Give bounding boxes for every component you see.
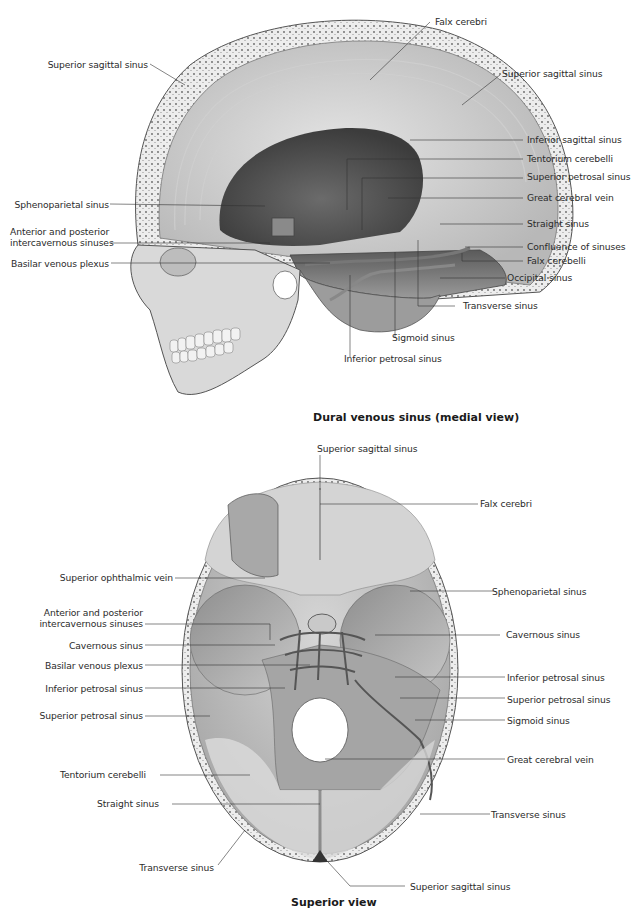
label-medial-intercavernous-line1: Anterior and posterior [10,226,109,237]
label-superior-tentorium-cerebelli: Tentorium cerebelli [10,769,146,780]
label-medial-basilar-venous-plexus: Basilar venous plexus [10,258,109,269]
label-superior-intercavernous-line1: Anterior and posterior [10,607,143,618]
label-medial-transverse-sinus: Transverse sinus [463,300,538,311]
label-superior-straight-sinus: Straight sinus [10,798,159,809]
label-superior-intercavernous-line2: intercavernous sinuses [10,618,143,629]
label-medial-sigmoid-sinus: Sigmoid sinus [392,332,455,343]
label-medial-inferior-petrosal-sinus: Inferior petrosal sinus [344,353,442,364]
label-superior-superior-petrosal-sinus-left: Superior petrosal sinus [10,710,143,721]
superior-view-skull-base [182,478,458,862]
label-medial-straight-sinus: Straight sinus [527,218,589,229]
anatomy-figure-page: Superior sagittal sinus Sphenoparietal s… [0,0,637,923]
label-medial-falx-cerebri: Falx cerebri [435,16,487,27]
label-medial-superior-sagittal-sinus-left: Superior sagittal sinus [32,59,148,70]
label-superior-falx-cerebri: Falx cerebri [480,498,532,509]
label-medial-falx-cerebelli: Falx cerebelli [527,255,586,266]
label-superior-cavernous-sinus-left: Cavernous sinus [10,640,143,651]
label-medial-confluence-of-sinuses: Confluence of sinuses [527,241,625,252]
label-medial-great-cerebral-vein: Great cerebral vein [527,192,614,203]
label-superior-cavernous-sinus-right: Cavernous sinus [506,629,580,640]
label-superior-inferior-petrosal-sinus-left: Inferior petrosal sinus [10,683,143,694]
label-medial-intercavernous-line2: intercavernous sinuses [10,237,109,248]
label-superior-basilar-venous-plexus: Basilar venous plexus [10,660,143,671]
label-superior-superior-sagittal-sinus-bottom: Superior sagittal sinus [410,881,510,892]
label-superior-great-cerebral-vein: Great cerebral vein [507,754,594,765]
label-superior-superior-sagittal-sinus-top: Superior sagittal sinus [317,443,417,454]
label-superior-sphenoparietal-sinus: Sphenoparietal sinus [492,586,587,597]
caption-superior-view: Superior view [291,896,377,909]
caption-medial-view: Dural venous sinus (medial view) [313,411,519,424]
label-superior-sigmoid-sinus: Sigmoid sinus [507,715,570,726]
label-medial-sphenoparietal-sinus: Sphenoparietal sinus [10,199,109,210]
label-medial-inferior-sagittal-sinus: Inferior sagittal sinus [527,134,622,145]
label-superior-transverse-sinus-left: Transverse sinus [10,862,214,873]
label-medial-superior-petrosal-sinus: Superior petrosal sinus [527,171,630,182]
label-medial-superior-sagittal-sinus-right: Superior sagittal sinus [502,68,602,79]
label-superior-superior-petrosal-sinus-right: Superior petrosal sinus [507,694,610,705]
label-superior-transverse-sinus-right: Transverse sinus [491,809,566,820]
label-medial-tentorium-cerebelli: Tentorium cerebelli [527,153,613,164]
label-medial-occipital-sinus: Occipital sinus [507,272,572,283]
label-superior-ophthalmic-vein: Superior ophthalmic vein [10,572,173,583]
label-superior-inferior-petrosal-sinus-right: Inferior petrosal sinus [507,672,605,683]
